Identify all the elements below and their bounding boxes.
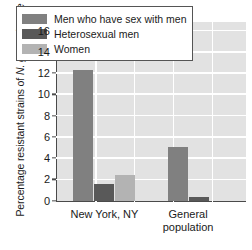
gridline-vertical	[212, 22, 214, 202]
y-axis-tick-mark	[52, 179, 56, 180]
y-axis-tick-mark	[52, 72, 56, 73]
bar	[189, 197, 209, 200]
y-axis-tick-label: 8	[10, 110, 50, 122]
legend-label: Heterosexual men	[54, 28, 139, 40]
y-axis-tick-mark	[52, 115, 56, 116]
y-axis-tick-mark	[52, 200, 56, 201]
y-axis-tick-label: 16	[10, 25, 50, 37]
legend-label: Men who have sex with men	[54, 13, 186, 25]
y-axis-tick-label: 2	[10, 173, 50, 185]
y-axis-tick-label: 12	[10, 67, 50, 79]
legend-swatch	[22, 14, 47, 24]
bar	[115, 175, 135, 201]
y-axis-tick-label: 0	[10, 195, 50, 207]
bar	[73, 70, 93, 201]
y-axis-tick-label: 14	[10, 46, 50, 58]
bar	[168, 147, 188, 200]
y-axis-tick-label: 10	[10, 88, 50, 100]
y-axis-tick-mark	[52, 157, 56, 158]
y-axis-tick-mark	[52, 94, 56, 95]
y-axis-tick-label: 4	[10, 152, 50, 164]
legend-label: Women	[54, 43, 90, 55]
bar	[94, 184, 114, 201]
x-axis-line	[56, 201, 246, 202]
y-axis-tick-mark	[52, 136, 56, 137]
x-axis-category-label: General population	[133, 208, 243, 234]
y-axis-tick-label: 6	[10, 131, 50, 143]
bar-chart: Percentage resistant strains of N. gonor…	[0, 0, 252, 250]
